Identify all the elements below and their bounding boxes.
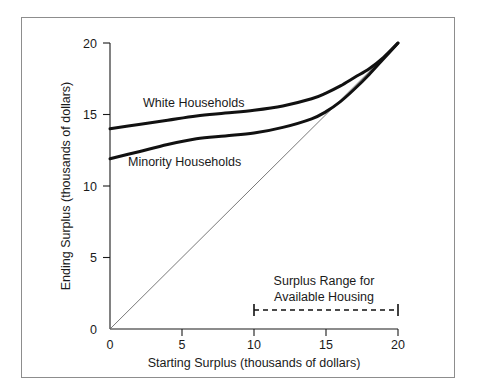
surplus-range-text-line-2: Available Housing bbox=[274, 290, 374, 304]
x-tick-label-15: 15 bbox=[319, 338, 333, 352]
x-axis-title: Starting Surplus (thousands of dollars) bbox=[148, 356, 361, 370]
y-tick-label-5: 5 bbox=[90, 251, 97, 265]
series-label-minority-households: Minority Households bbox=[128, 155, 241, 169]
x-tick-label-0: 0 bbox=[107, 338, 114, 352]
series-label-white-households: White Households bbox=[143, 96, 244, 110]
y-axis-title: Ending Surplus (thousands of dollars) bbox=[59, 82, 73, 290]
x-axis bbox=[110, 329, 398, 336]
surplus-range-annotation: Surplus Range for Available Housing bbox=[254, 274, 398, 316]
y-tick-label-0: 0 bbox=[90, 323, 97, 337]
y-tick-label-15: 15 bbox=[83, 108, 97, 122]
surplus-range-text-line-1: Surplus Range for bbox=[274, 274, 375, 288]
x-tick-label-10: 10 bbox=[247, 338, 261, 352]
x-tick-label-5: 5 bbox=[179, 338, 186, 352]
y-tick-label-20: 20 bbox=[83, 37, 97, 51]
y-tick-label-10: 10 bbox=[83, 180, 97, 194]
x-tick-label-20: 20 bbox=[391, 338, 405, 352]
y-axis bbox=[103, 43, 110, 329]
chart-canvas: 20 15 10 5 0 0 5 10 15 20 Starting Surpl… bbox=[0, 0, 478, 389]
figure-root: 20 15 10 5 0 0 5 10 15 20 Starting Surpl… bbox=[0, 0, 478, 389]
